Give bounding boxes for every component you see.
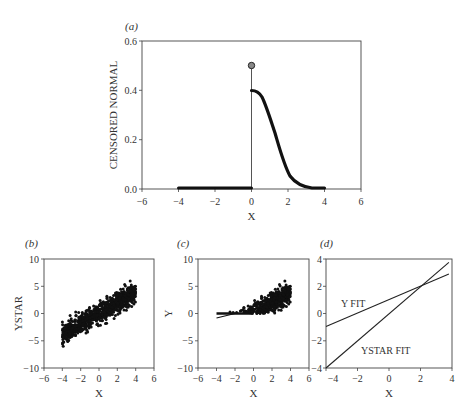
svg-text:4: 4 — [322, 196, 327, 207]
svg-text:0: 0 — [188, 308, 193, 319]
panel-b-y-ticks: −10 −5 0 5 10 — [23, 254, 39, 374]
panel-a-point-mass-marker — [248, 62, 254, 68]
svg-text:−5: −5 — [28, 335, 39, 346]
svg-text:2: 2 — [270, 373, 275, 384]
panel-d-tag: (d) — [320, 237, 333, 250]
svg-text:−2: −2 — [75, 373, 86, 384]
panel-b-scatter-points — [61, 279, 137, 347]
panel-c-ylabel: Y — [162, 309, 174, 317]
panel-c-y-ticks: −10 −5 0 5 10 — [177, 254, 193, 374]
svg-text:−2: −2 — [210, 196, 221, 207]
panel-d-ystar-fit-label: YSTAR FIT — [361, 345, 410, 356]
svg-text:10: 10 — [29, 254, 39, 265]
panel-c-x-ticks: −6 −4 −2 0 2 4 6 — [193, 373, 312, 384]
svg-text:−5: −5 — [182, 335, 193, 346]
svg-text:2: 2 — [317, 281, 322, 292]
svg-text:−2: −2 — [311, 335, 322, 346]
panel-b: (b) −6 −4 −2 0 2 4 6 −10 −5 0 5 10 X — [12, 237, 157, 399]
svg-text:6: 6 — [152, 373, 157, 384]
svg-text:2: 2 — [418, 373, 423, 384]
svg-text:−4: −4 — [211, 373, 222, 384]
panel-b-ylabel: YSTAR — [12, 295, 24, 331]
svg-text:2: 2 — [286, 196, 291, 207]
svg-text:0.6: 0.6 — [125, 36, 138, 47]
svg-text:−4: −4 — [173, 196, 184, 207]
svg-text:−2: −2 — [352, 373, 363, 384]
panel-d-y-ticks: −4 −2 0 2 4 — [311, 254, 322, 374]
panel-b-x-ticks: −6 −4 −2 0 2 4 6 — [39, 373, 157, 384]
panel-a-tag: (a) — [125, 20, 138, 33]
panel-a-xlabel: X — [248, 210, 256, 222]
svg-text:0: 0 — [251, 373, 256, 384]
svg-text:0.2: 0.2 — [125, 134, 138, 145]
svg-text:0: 0 — [249, 196, 254, 207]
svg-text:5: 5 — [188, 281, 193, 292]
svg-text:−6: −6 — [137, 196, 148, 207]
svg-text:−6: −6 — [193, 373, 204, 384]
svg-text:−6: −6 — [39, 373, 50, 384]
svg-text:4: 4 — [133, 373, 138, 384]
panel-d-xlabel: X — [385, 387, 393, 399]
panel-a-y-ticks: 0.0 0.2 0.4 0.6 — [125, 36, 138, 195]
panel-d-y-fit-label: Y FIT — [341, 298, 365, 309]
svg-text:0: 0 — [387, 373, 392, 384]
panel-a: (a) −6 −4 −2 0 2 4 6 0.0 0.2 0.4 0.6 X C… — [107, 20, 364, 222]
svg-text:0: 0 — [97, 373, 102, 384]
svg-text:−2: −2 — [230, 373, 241, 384]
panel-c-scatter-points — [229, 279, 292, 315]
panel-a-ylabel: CENSORED NORMAL — [107, 60, 119, 169]
svg-text:2: 2 — [115, 373, 120, 384]
panel-a-x-ticks: −6 −4 −2 0 2 4 6 — [137, 196, 364, 207]
svg-text:4: 4 — [317, 254, 322, 265]
svg-text:4: 4 — [450, 373, 455, 384]
panel-c-xlabel: X — [250, 387, 258, 399]
panel-c-tag: (c) — [177, 237, 190, 250]
panel-a-density-curve — [252, 91, 325, 189]
panel-c: (c) −6 −4 −2 0 2 4 6 −10 −5 0 5 10 X — [162, 237, 312, 399]
svg-text:−4: −4 — [328, 373, 339, 384]
svg-text:0: 0 — [34, 308, 39, 319]
panel-d-x-ticks: −4 −2 0 2 4 — [328, 373, 455, 384]
svg-text:4: 4 — [288, 373, 293, 384]
svg-text:5: 5 — [34, 281, 39, 292]
svg-text:−10: −10 — [23, 363, 39, 374]
svg-text:−4: −4 — [57, 373, 68, 384]
svg-text:−4: −4 — [311, 363, 322, 374]
panel-d: (d) −4 −2 0 2 4 −4 −2 0 2 4 X Y FIT YSTA… — [311, 237, 454, 399]
panel-b-tag: (b) — [25, 237, 38, 250]
figure: (a) −6 −4 −2 0 2 4 6 0.0 0.2 0.4 0.6 X C… — [0, 0, 472, 411]
svg-text:6: 6 — [307, 373, 312, 384]
svg-text:−10: −10 — [177, 363, 193, 374]
svg-text:0.0: 0.0 — [125, 184, 138, 195]
svg-text:0.4: 0.4 — [125, 85, 138, 96]
panel-b-xlabel: X — [95, 387, 103, 399]
svg-text:6: 6 — [359, 196, 364, 207]
svg-text:10: 10 — [183, 254, 193, 265]
svg-text:0: 0 — [317, 308, 322, 319]
